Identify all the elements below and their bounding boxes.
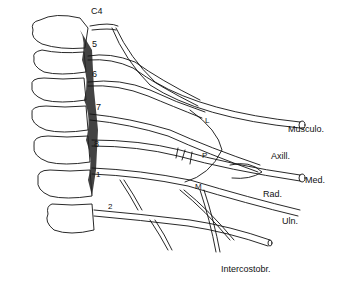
nerve-label-axillary: Axill. [271,152,290,161]
cord-label-medial: M [195,183,202,191]
root-label-c7: 7 [96,103,101,112]
cord-label-lateral: L [205,117,209,125]
root-label-t1: 1 [96,171,100,179]
nerve-label-musculocutaneous: Musculo. [288,125,324,134]
root-label-c8: 8 [94,140,99,149]
root-label-t2: 2 [108,203,112,211]
root-label-c5: 5 [92,40,97,49]
nerve-label-median: Med. [305,176,325,185]
root-label-c6: 6 [92,70,97,79]
cord-label-posterior: P [202,152,207,160]
nerve-label-radial: Rad. [263,190,282,199]
root-label-c4: C4 [91,7,103,16]
vertebral-column [32,15,98,233]
diagram-drawing [0,0,342,287]
nerve-label-intercostobrachial: Intercostobr. [221,265,271,274]
brachial-plexus-diagram: C4 5 6 7 8 1 2 L P M Musculo. Axill. Med… [0,0,342,287]
nerve-network [88,24,305,252]
nerve-label-ulnar: Uln. [282,217,298,226]
